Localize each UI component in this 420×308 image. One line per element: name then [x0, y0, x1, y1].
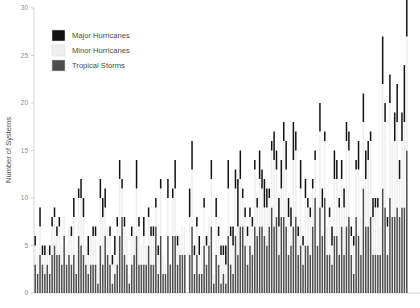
bar-segment — [85, 246, 87, 265]
bar-segment — [232, 227, 234, 246]
bar-segment — [278, 227, 280, 256]
bar-segment — [295, 132, 297, 151]
bar-segment — [112, 265, 114, 284]
bar-segment — [341, 227, 343, 294]
bar-segment — [133, 255, 135, 293]
bar-stack — [114, 236, 116, 293]
bar-segment — [387, 217, 389, 227]
bar-stack — [271, 141, 273, 293]
bar-segment — [380, 255, 382, 293]
bar-stack — [184, 227, 186, 294]
bar-segment — [189, 189, 191, 218]
bar-stack — [244, 208, 246, 294]
bar-segment — [155, 227, 157, 294]
bar-stack — [143, 217, 145, 293]
bar-segment — [225, 265, 227, 284]
y-axis-title: Number of Systems — [4, 117, 13, 183]
bar-segment — [266, 246, 268, 294]
bar-stack — [133, 227, 135, 294]
bar-stack — [266, 189, 268, 294]
bar-segment — [394, 113, 396, 142]
bar-segment — [131, 236, 133, 265]
bar-segment — [331, 227, 333, 246]
bar-segment — [223, 274, 225, 293]
bar-stack — [129, 274, 131, 293]
bar-segment — [131, 227, 133, 237]
bar-stack — [319, 103, 321, 293]
bar-segment — [256, 236, 258, 293]
bar-segment — [150, 227, 152, 237]
bar-segment — [271, 151, 273, 208]
bar-stack — [406, 0, 408, 293]
bar-segment — [112, 284, 114, 294]
bar-segment — [269, 227, 271, 294]
bar-segment — [382, 84, 384, 189]
bar-stack — [278, 198, 280, 293]
bar-segment — [365, 227, 367, 294]
bar-segment — [406, 151, 408, 294]
bar-stack — [117, 217, 119, 293]
bar-segment — [389, 103, 391, 198]
bar-segment — [305, 179, 307, 198]
bar-stack — [252, 217, 254, 293]
bar-stack — [174, 160, 176, 293]
bar-segment — [334, 236, 336, 293]
bar-stack — [160, 179, 162, 293]
bar-segment — [158, 274, 160, 293]
legend-swatch — [52, 60, 65, 71]
bar-stack — [389, 75, 391, 294]
bar-segment — [384, 103, 386, 122]
bar-segment — [42, 265, 44, 294]
bar-segment — [95, 236, 97, 265]
bar-segment — [367, 141, 369, 160]
bar-segment — [218, 265, 220, 294]
bar-stack — [54, 208, 56, 294]
bar-stack — [42, 246, 44, 294]
bar-segment — [336, 160, 338, 179]
bar-stack — [182, 227, 184, 294]
bar-segment — [104, 189, 106, 208]
bar-segment — [244, 217, 246, 246]
bar-segment — [148, 246, 150, 294]
bar-segment — [138, 265, 140, 294]
bar-stack — [307, 198, 309, 293]
bar-segment — [117, 217, 119, 227]
bar-stack — [167, 179, 169, 293]
bar-segment — [281, 217, 283, 293]
bar-stack — [196, 217, 198, 293]
bar-stack — [220, 246, 222, 294]
bar-segment — [85, 265, 87, 294]
bar-segment — [73, 217, 75, 255]
bar-segment — [290, 227, 292, 246]
bar-stack — [261, 170, 263, 294]
bar-segment — [170, 265, 172, 294]
bar-segment — [297, 236, 299, 255]
bar-segment — [37, 274, 39, 293]
bar-segment — [148, 217, 150, 246]
bar-segment — [392, 141, 394, 217]
bar-segment — [78, 189, 80, 199]
bar-stack — [336, 160, 338, 293]
bar-segment — [249, 217, 251, 246]
bar-segment — [396, 122, 398, 208]
bar-segment — [114, 274, 116, 293]
bar-segment — [162, 255, 164, 274]
bar-segment — [377, 255, 379, 293]
bar-segment — [107, 255, 109, 293]
bar-segment — [225, 246, 227, 265]
bar-stack — [300, 160, 302, 293]
bar-segment — [90, 265, 92, 294]
bar-segment — [375, 208, 377, 256]
bar-segment — [273, 132, 275, 161]
bar-stack — [92, 227, 94, 294]
bar-stack — [401, 113, 403, 294]
bar-segment — [293, 227, 295, 294]
bar-segment — [307, 198, 309, 208]
bar-segment — [88, 236, 90, 255]
bar-segment — [377, 198, 379, 208]
bar-segment — [39, 255, 41, 293]
bar-segment — [136, 189, 138, 237]
bar-segment — [88, 274, 90, 293]
bar-stack — [351, 227, 353, 294]
bar-segment — [254, 160, 256, 170]
